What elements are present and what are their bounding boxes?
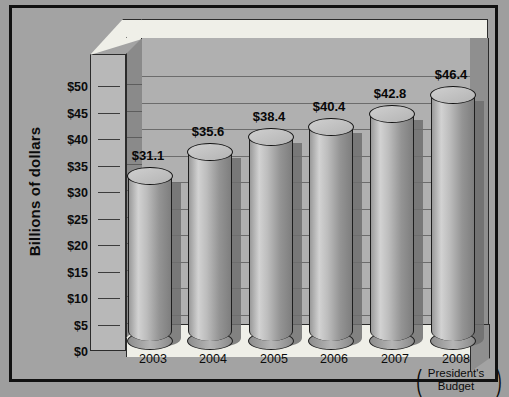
x-axis-year: 2008 [442, 352, 470, 366]
y-axis-label: $10 [20, 292, 88, 306]
ceiling-face [126, 19, 488, 39]
gridline-side [127, 84, 142, 85]
y-tick [98, 245, 120, 246]
president-budget-line1: President's [428, 367, 485, 379]
bar-body [128, 176, 172, 341]
gridline-side [127, 164, 142, 165]
plot-area: $31.1$35.6$38.4$40.4$42.8$46.4 [90, 19, 490, 364]
y-tick [98, 272, 120, 273]
x-axis-year: 2003 [139, 352, 167, 366]
bar-cylinder[interactable] [249, 137, 293, 341]
president-budget-line2: Budget [438, 380, 474, 392]
bar-top-ellipse [430, 86, 476, 104]
y-axis-label: $20 [20, 239, 88, 253]
bar-cylinder[interactable] [370, 114, 414, 341]
y-axis-label: $30 [20, 186, 88, 200]
y-axis-label: $25 [20, 213, 88, 227]
bar-value-label: $42.8 [374, 86, 407, 101]
bar-top-ellipse [308, 118, 354, 136]
bar-value-label: $46.4 [435, 67, 468, 82]
x-axis-label: 2008President'sBudget [428, 352, 485, 393]
y-tick [98, 298, 120, 299]
left-wall-scale-face [90, 54, 126, 351]
x-axis-label: 2006 [320, 352, 348, 366]
x-axis-year: 2005 [260, 352, 288, 366]
x-axis-year: 2006 [320, 352, 348, 366]
bar-value-label: $38.4 [253, 109, 286, 124]
gridline-side [127, 137, 142, 138]
x-axis-label: 2005 [260, 352, 288, 366]
bar-cylinder[interactable] [188, 152, 232, 341]
y-tick [98, 86, 120, 87]
y-axis-label: $35 [20, 160, 88, 174]
x-axis-label: 2003 [139, 352, 167, 366]
bar-body [309, 127, 353, 341]
chart-panel: Billions of dollars $31.1$35.6$38.4$40.4… [9, 5, 498, 382]
y-axis-label: $40 [20, 133, 88, 147]
bar-body [249, 137, 293, 341]
y-tick [98, 325, 120, 326]
bar-cylinder[interactable] [128, 176, 172, 341]
bar-body [188, 152, 232, 341]
bar-value-label: $31.1 [132, 148, 165, 163]
y-axis-label: $45 [20, 107, 88, 121]
x-axis-sublabel: President'sBudget [428, 367, 485, 393]
open-paren: ( [416, 366, 422, 396]
gridline [141, 76, 471, 77]
y-tick [98, 139, 120, 140]
gridline-side [127, 111, 142, 112]
close-paren: ) [496, 366, 502, 396]
bar-body [370, 114, 414, 341]
bar-value-label: $35.6 [192, 124, 225, 139]
bar-cylinder[interactable] [309, 127, 353, 341]
y-tick [98, 113, 120, 114]
x-axis-label: 2004 [199, 352, 227, 366]
y-axis-label: $0 [20, 345, 88, 359]
y-tick [98, 192, 120, 193]
x-axis-year: 2004 [199, 352, 227, 366]
y-axis-label: $15 [20, 266, 88, 280]
bar-value-label: $40.4 [313, 99, 346, 114]
x-axis-year: 2007 [381, 352, 409, 366]
x-axis-label: 2007 [381, 352, 409, 366]
y-tick [98, 166, 120, 167]
gridline [141, 103, 471, 104]
y-axis-label: $5 [20, 319, 88, 333]
y-axis-label: $50 [20, 80, 88, 94]
bar-cylinder[interactable] [431, 95, 475, 341]
y-tick [98, 219, 120, 220]
bar-body [431, 95, 475, 341]
